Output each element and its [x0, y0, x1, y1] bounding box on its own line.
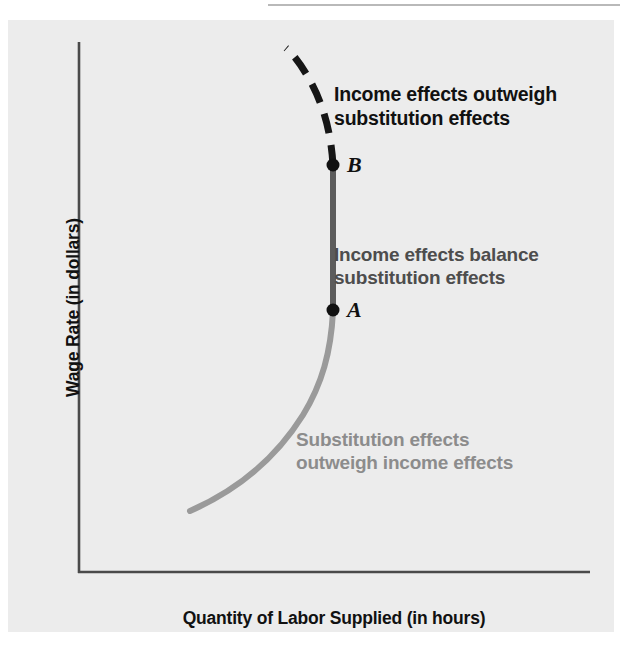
annotation-income-balance-substitution: Income effects balance substitution effe… — [334, 243, 539, 289]
point-marker-b — [327, 159, 340, 172]
point-marker-a — [327, 304, 340, 317]
point-label-a: A — [347, 297, 362, 323]
x-axis-title: Quantity of Labor Supplied (in hours) — [78, 608, 590, 629]
y-axis-title: Wage Rate (in dollars) — [63, 158, 84, 458]
annotation-substitution-outweigh-income: Substitution effects outweigh income eff… — [296, 428, 513, 474]
supply-curve-lower-segment — [190, 311, 333, 511]
supply-curve-dashed-segment — [286, 48, 333, 165]
annotation-income-outweigh-substitution: Income effects outweigh substitution eff… — [334, 83, 557, 131]
point-label-b: B — [347, 152, 362, 178]
labor-supply-figure: Income effects outweigh substitution eff… — [0, 0, 622, 658]
